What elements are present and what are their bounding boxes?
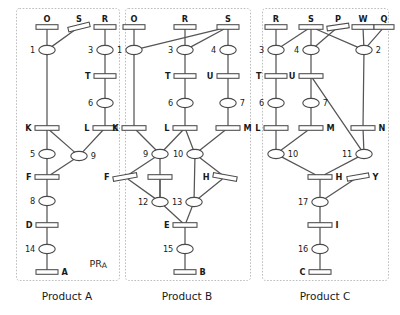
node-label-c-h: H (336, 172, 343, 182)
arc-c-2-to-c-n (363, 55, 364, 126)
caption-product-c: Product C (300, 290, 351, 302)
arc-c-s-to-c-3 (281, 29, 307, 46)
place-a-9 (71, 151, 87, 160)
arc-c-p-to-c-4 (316, 29, 336, 46)
transition-b-l (173, 126, 197, 131)
arc-a-s-to-a-1 (52, 29, 76, 46)
arc-c-s-to-c-2 (316, 29, 357, 47)
arc-layer (47, 29, 382, 269)
transition-a-o (36, 25, 58, 30)
transition-c-n (351, 126, 375, 131)
transition-a-d (36, 223, 58, 228)
place-a-3 (97, 45, 113, 54)
node-label-c-u: U (289, 71, 296, 81)
place-a-6 (97, 98, 113, 107)
place-a-14 (39, 244, 55, 253)
place-c-4 (303, 45, 319, 54)
place-b-1 (126, 45, 142, 54)
annotation-pra: PRA (89, 258, 107, 270)
place-a-5 (39, 149, 55, 158)
node-label-c-y: Y (372, 172, 380, 182)
node-label-c-10: 10 (288, 149, 298, 159)
node-label-c-7: 7 (323, 98, 328, 108)
node-label-a-d: D (26, 220, 33, 230)
place-c-10 (268, 149, 284, 158)
transition-a-f (35, 175, 59, 180)
arc-b-m-to-b-10 (200, 130, 225, 150)
node-label-a-9: 9 (91, 151, 96, 161)
arc-c-n-to-c-11 (363, 130, 364, 149)
node-label-c-q: Q (381, 14, 388, 24)
arc-a-9-to-a-f (51, 159, 74, 174)
transition-b-b (174, 270, 196, 275)
transition-c-l (264, 126, 288, 131)
node-label-b-l: L (164, 123, 169, 133)
node-label-b-b: B (200, 267, 206, 277)
transition-b-k (122, 126, 146, 131)
node-label-a-14: 14 (25, 244, 35, 254)
node-label-c-r: R (273, 14, 280, 24)
node-label-a-k: K (25, 123, 32, 133)
transition-c-w (352, 25, 374, 30)
node-label-b-h: H (203, 172, 210, 182)
arc-b-9-to-b-f (129, 157, 155, 174)
node-label-b-e: E (164, 220, 170, 230)
node-label-b-m: M (244, 123, 252, 133)
caption-product-a: Product A (42, 290, 93, 302)
transition-c-u (299, 74, 323, 79)
node-label-b-12: 12 (138, 197, 148, 207)
place-b-9 (152, 149, 168, 158)
node-label-b-o: O (131, 14, 138, 24)
arc-c-q-to-c-2 (368, 29, 382, 46)
place-a-8 (39, 196, 55, 205)
node-label-c-m: M (327, 123, 335, 133)
place-c-11 (356, 149, 372, 158)
arc-b-l-to-b-10 (186, 130, 193, 149)
transition-b-g (148, 175, 172, 180)
transition-b-o (123, 25, 145, 30)
transition-c-p (327, 23, 349, 31)
node-label-c-i: I (336, 220, 339, 230)
place-b-13 (186, 197, 202, 206)
place-c-6 (268, 98, 284, 107)
transition-b-h (213, 173, 237, 182)
arc-b-f-to-b-12 (128, 179, 155, 198)
place-c-2 (356, 45, 372, 54)
node-label-b-10: 10 (173, 149, 183, 159)
transition-b-u (217, 74, 239, 79)
place-b-12 (152, 197, 168, 206)
arc-b-10-to-b-13 (194, 159, 195, 198)
petri-net-figure: OSRTKLFDA13659814PRAORSTUKLMFHEB13467910… (0, 0, 400, 315)
transition-a-a (36, 270, 58, 275)
node-label-c-2: 2 (376, 45, 381, 55)
transition-b-r (174, 25, 196, 30)
node-label-c-p: P (335, 14, 341, 24)
node-label-a-t: T (85, 71, 91, 81)
transition-b-t (174, 74, 196, 79)
node-label-b-u: U (207, 71, 214, 81)
node-label-b-f: F (104, 172, 110, 182)
place-b-4 (220, 45, 236, 54)
place-b-3 (177, 45, 193, 54)
transition-c-t (265, 74, 287, 79)
transition-a-k (35, 126, 59, 131)
node-label-a-f: F (26, 172, 32, 182)
transition-c-m (299, 126, 323, 131)
node-label-a-a: A (62, 267, 69, 277)
node-label-b-k: K (112, 123, 119, 133)
transition-b-s (217, 25, 239, 30)
node-label-b-13: 13 (172, 197, 182, 207)
transition-c-c (309, 270, 331, 275)
place-c-7 (303, 98, 319, 107)
node-label-a-5: 5 (30, 149, 35, 159)
transition-a-s (68, 22, 90, 32)
panel-layer (17, 9, 389, 281)
node-label-a-1: 1 (30, 45, 35, 55)
transition-c-h (308, 175, 332, 180)
node-label-c-s: S (308, 14, 314, 24)
place-c-3 (268, 45, 284, 54)
transition-c-q (374, 25, 394, 30)
node-label-b-15: 15 (163, 244, 173, 254)
node-label-c-3: 3 (259, 45, 264, 55)
transition-b-e (173, 223, 197, 228)
